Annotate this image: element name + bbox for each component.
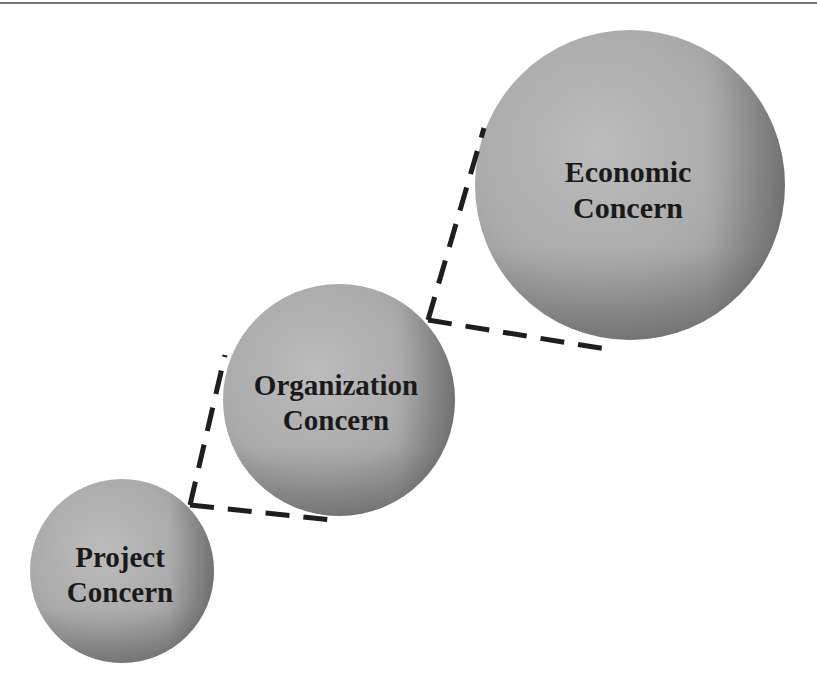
- economic-label-line1: Economic: [565, 154, 692, 190]
- project-label-line1: Project: [67, 540, 173, 575]
- project-label-line2: Concern: [67, 575, 173, 610]
- economic-label: Economic Concern: [565, 154, 692, 226]
- organization-label-line2: Concern: [254, 403, 418, 438]
- organization-label-line1: Organization: [254, 368, 418, 403]
- organization-label: Organization Concern: [254, 368, 418, 438]
- economic-label-line2: Concern: [565, 190, 692, 226]
- project-label: Project Concern: [67, 540, 173, 610]
